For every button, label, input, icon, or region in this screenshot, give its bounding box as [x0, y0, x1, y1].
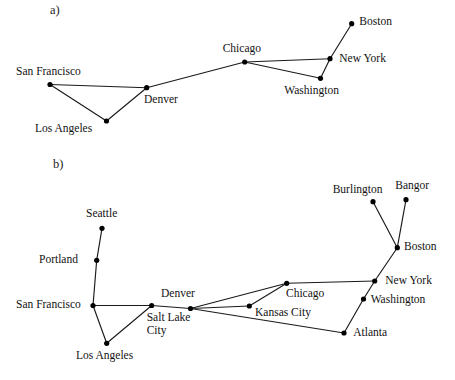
edge-los-angeles-to-denver: [107, 88, 147, 121]
label-boston: Boston: [404, 241, 437, 253]
label-washington: Washington: [284, 85, 339, 97]
label-denver: Denver: [144, 94, 178, 106]
edge-denver-to-chicago: [147, 62, 245, 88]
label-bangor: Bangor: [395, 180, 429, 192]
edge-chicago-to-new-york: [287, 281, 375, 283]
edge-chicago-to-washington: [245, 62, 321, 78]
edge-kansas-city-to-chicago: [249, 283, 286, 306]
edge-san-francisco-to-los-angeles: [50, 85, 107, 122]
label-chicago: Chicago: [223, 43, 261, 55]
label-burlington: Burlington: [333, 184, 383, 196]
edge-chicago-to-new-york: [245, 59, 330, 62]
node-new-york: [327, 56, 332, 61]
node-washington: [361, 296, 366, 301]
node-los-angeles: [104, 118, 109, 123]
label-kansas-city: Kansas City: [255, 307, 311, 319]
network-figure: a)San FranciscoLos AngelesDenverChicagoW…: [0, 0, 455, 380]
network-canvas: [0, 0, 455, 380]
label-chicago: Chicago: [286, 288, 324, 300]
edge-los-angeles-to-salt-lake-city: [107, 306, 152, 344]
node-new-york: [372, 278, 377, 283]
edge-salt-lake-city-to-denver: [152, 306, 191, 309]
node-boston: [395, 245, 400, 250]
node-kansas-city: [247, 303, 252, 308]
node-boston: [349, 21, 354, 26]
node-denver: [144, 85, 149, 90]
edge-san-francisco-to-denver: [50, 85, 147, 88]
label-salt-lake-city-line2: City: [147, 324, 167, 336]
node-burlington: [370, 199, 375, 204]
node-san-francisco: [47, 82, 52, 87]
node-chicago: [242, 59, 247, 64]
label-boston: Boston: [359, 16, 392, 28]
panel-b-graph: [90, 197, 408, 346]
edge-portland-to-san-francisco: [93, 260, 97, 305]
node-salt-lake-city: [149, 303, 154, 308]
node-los-angeles: [104, 341, 109, 346]
panel-label-a: a): [50, 3, 60, 18]
label-san-francisco: San Francisco: [16, 66, 81, 78]
label-los-angeles: Los Angeles: [76, 350, 133, 362]
edge-san-francisco-to-los-angeles: [93, 306, 107, 344]
label-atlanta: Atlanta: [353, 327, 387, 339]
node-chicago: [284, 281, 289, 286]
label-new-york: New York: [339, 53, 386, 65]
panel-a-graph: [47, 21, 354, 124]
node-atlanta: [341, 330, 346, 335]
label-denver: Denver: [161, 288, 195, 300]
label-seattle: Seattle: [86, 208, 117, 220]
label-salt-lake-city: Salt Lake: [147, 312, 191, 324]
edge-denver-to-chicago: [191, 283, 287, 308]
panel-label-b: b): [53, 157, 63, 172]
node-washington: [318, 76, 323, 81]
edge-washington-to-new-york: [321, 59, 331, 79]
label-new-york: New York: [385, 275, 432, 287]
label-portland: Portland: [39, 254, 78, 266]
node-bangor: [403, 197, 408, 202]
label-los-angeles: Los Angeles: [35, 123, 92, 135]
edge-boston-to-burlington: [373, 202, 397, 248]
label-san-francisco: San Francisco: [16, 299, 81, 311]
node-portland: [94, 258, 99, 263]
edge-seattle-to-portland: [97, 228, 102, 260]
node-san-francisco: [90, 303, 95, 308]
label-washington: Washington: [371, 294, 426, 306]
node-seattle: [99, 226, 104, 231]
